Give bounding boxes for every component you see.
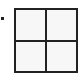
grid-cell-top-right[interactable] <box>46 10 76 41</box>
grid-cell-bottom-right[interactable] <box>46 41 76 72</box>
grid-2x2-icon[interactable] <box>14 8 78 73</box>
bullet-dot-icon <box>1 17 4 20</box>
grid-cell-bottom-left[interactable] <box>16 41 46 72</box>
grid-cell-top-left[interactable] <box>16 10 46 41</box>
